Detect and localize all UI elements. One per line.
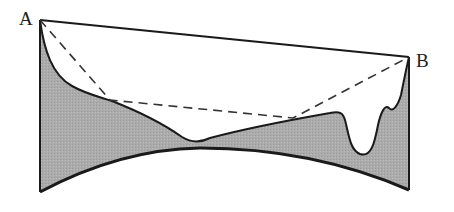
point-b-label: B — [416, 51, 429, 70]
rope-terrain-diagram — [0, 0, 454, 212]
point-a-label: A — [19, 9, 33, 28]
straight-line-ab — [40, 20, 409, 57]
